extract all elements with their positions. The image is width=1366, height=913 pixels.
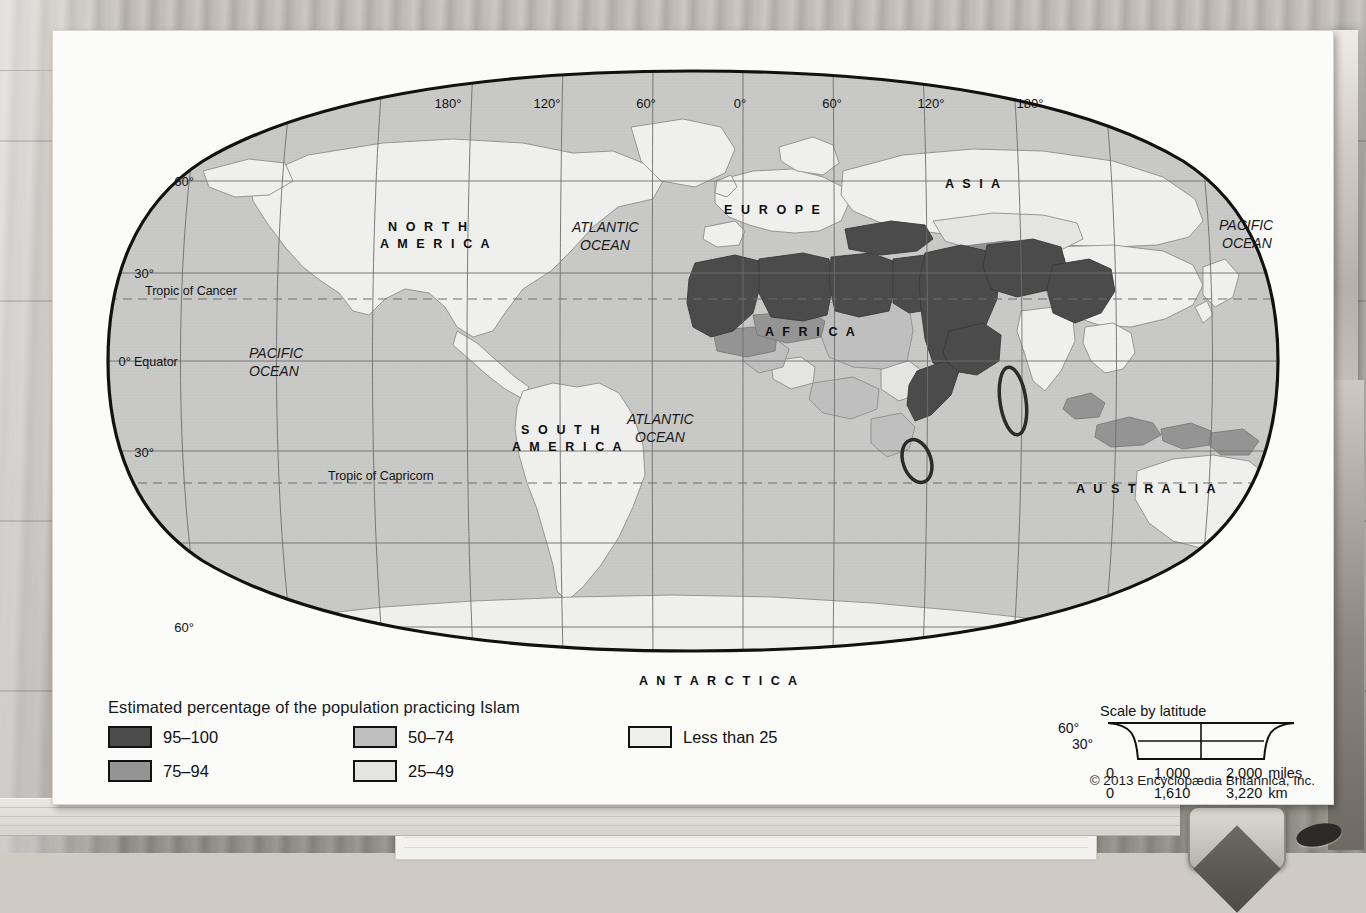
lon-label-60w: 60°	[636, 96, 656, 111]
tropic-of-capricorn-label: Tropic of Capricorn	[328, 469, 434, 483]
legend-swatch-50-74	[353, 726, 397, 748]
map-legend: Estimated percentage of the population p…	[105, 698, 1025, 798]
continent-label-north-america-2: A M E R I C A	[380, 237, 492, 251]
scale-lat-30-label: 30°	[1072, 736, 1093, 752]
continent-label-north-america: N O R T H	[388, 220, 470, 234]
copyright-notice: © 2013 Encyclopædia Britannica, Inc.	[985, 773, 1315, 788]
legend-item-95-100[interactable]: 95–100	[108, 726, 218, 748]
diamond-icon	[1193, 825, 1281, 913]
nav-diamond-button[interactable]	[1188, 806, 1286, 870]
lat-label-0: 0°	[119, 354, 131, 369]
legend-item-25-49[interactable]: 25–49	[353, 760, 454, 782]
ocean-label-atlantic-south-2: OCEAN	[635, 429, 686, 445]
ocean-label-pacific-west: PACIFIC	[249, 345, 304, 361]
legend-swatch-less-than-25	[628, 726, 672, 748]
world-map[interactable]: 180° 120° 60° 0° 60° 120° 180° 60° 30° 0…	[53, 31, 1333, 691]
lon-label-60e: 60°	[822, 96, 842, 111]
ocean-label-atlantic-south: ATLANTIC	[626, 411, 695, 427]
lon-label-180w: 180°	[435, 96, 462, 111]
ocean-label-pacific-east: PACIFIC	[1219, 217, 1274, 233]
legend-swatch-25-49	[353, 760, 397, 782]
continent-label-asia: A S I A	[945, 177, 1003, 191]
ocean-label-pacific-west-2: OCEAN	[249, 363, 300, 379]
legend-label-less-than-25: Less than 25	[683, 728, 778, 747]
continent-label-australia: A U S T R A L I A	[1076, 482, 1218, 496]
legend-label-25-49: 25–49	[408, 762, 454, 781]
lon-label-120w: 120°	[534, 96, 561, 111]
lat-label-60s: 60°	[174, 620, 194, 635]
legend-swatch-75-94	[108, 760, 152, 782]
scale-lat-60-label: 60°	[1058, 720, 1079, 736]
ocean-label-atlantic-north-2: OCEAN	[580, 237, 631, 253]
lon-label-120e: 120°	[918, 96, 945, 111]
equator-label: Equator	[134, 355, 178, 369]
lat-label-60n: 60°	[174, 174, 194, 189]
ocean-label-atlantic-north: ATLANTIC	[571, 219, 640, 235]
legend-item-50-74[interactable]: 50–74	[353, 726, 454, 748]
lon-label-180e: 180°	[1017, 96, 1044, 111]
lat-label-30n: 30°	[134, 266, 154, 281]
legend-label-95-100: 95–100	[163, 728, 218, 747]
legend-label-75-94: 75–94	[163, 762, 209, 781]
legend-item-75-94[interactable]: 75–94	[108, 760, 209, 782]
lon-label-0: 0°	[734, 96, 746, 111]
continent-label-south-america: S O U T H	[521, 423, 602, 437]
ocean-label-pacific-east-2: OCEAN	[1222, 235, 1273, 251]
lat-label-30s: 30°	[134, 445, 154, 460]
continent-label-south-america-2: A M E R I C A	[512, 440, 624, 454]
legend-swatch-95-100	[108, 726, 152, 748]
legend-label-50-74: 50–74	[408, 728, 454, 747]
continent-label-africa: A F R I C A	[765, 325, 857, 339]
panel-connector-line	[0, 70, 52, 71]
legend-title: Estimated percentage of the population p…	[108, 698, 1025, 717]
continent-label-antarctica: A N T A R C T I C A	[639, 674, 800, 688]
map-card: 180° 120° 60° 0° 60° 120° 180° 60° 30° 0…	[52, 30, 1334, 805]
continent-label-europe: E U R O P E	[724, 203, 823, 217]
tropic-of-cancer-label: Tropic of Cancer	[145, 284, 237, 298]
legend-item-less-than-25[interactable]: Less than 25	[628, 726, 778, 748]
scale-trapezoid-icon	[1106, 719, 1296, 763]
scale-title: Scale by latitude	[1100, 703, 1206, 719]
